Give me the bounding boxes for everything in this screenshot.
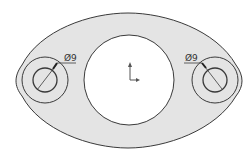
right-dim-label[interactable]: Ø9 (185, 53, 198, 63)
center-bore[interactable] (84, 35, 174, 125)
sketch-canvas[interactable]: Ø9 Ø9 (0, 0, 252, 157)
left-dim-label[interactable]: Ø9 (64, 53, 77, 63)
